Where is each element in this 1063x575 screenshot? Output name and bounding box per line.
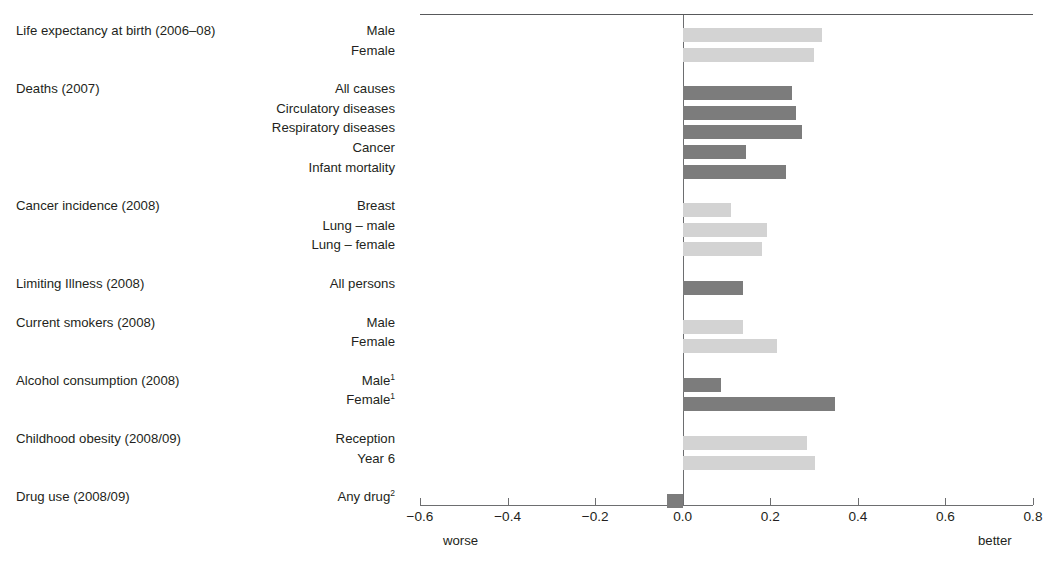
bar xyxy=(667,494,683,508)
plot-area: worse better −0.6−0.4−0.20.00.20.40.60.8 xyxy=(420,0,1063,575)
x-axis-tick-label: 0.6 xyxy=(936,509,955,524)
group-title: Cancer incidence (2008) xyxy=(16,199,160,213)
bar xyxy=(683,281,743,295)
bar xyxy=(683,203,731,217)
series-label: Cancer xyxy=(352,141,395,155)
chart-figure: Life expectancy at birth (2006–08)MaleFe… xyxy=(0,0,1063,575)
group-title: Childhood obesity (2008/09) xyxy=(16,432,181,446)
series-label: Infant mortality xyxy=(309,161,396,175)
x-axis-tick xyxy=(858,498,859,505)
series-label: Female1 xyxy=(346,393,395,407)
x-axis-tick-label: −0.2 xyxy=(582,509,609,524)
bar xyxy=(683,436,808,450)
group-title: Life expectancy at birth (2006–08) xyxy=(16,24,215,38)
series-label: Lung – female xyxy=(311,238,395,252)
series-label: Male xyxy=(366,316,395,330)
x-axis-tick-label: −0.4 xyxy=(494,509,521,524)
x-axis-tick-label: 0.2 xyxy=(761,509,780,524)
series-label: Female xyxy=(351,44,395,58)
group-title: Deaths (2007) xyxy=(16,82,100,96)
bar xyxy=(683,339,777,353)
category-label-column: Life expectancy at birth (2006–08)MaleFe… xyxy=(0,0,412,575)
bar xyxy=(683,165,787,179)
x-axis-tick-label: 0.8 xyxy=(1024,509,1043,524)
bar xyxy=(683,242,762,256)
x-axis-tick xyxy=(420,498,421,505)
group-title: Current smokers (2008) xyxy=(16,316,155,330)
footnote-marker: 1 xyxy=(390,371,395,381)
footnote-marker: 2 xyxy=(390,488,395,498)
x-axis-tick xyxy=(508,498,509,505)
bar xyxy=(683,48,815,62)
bar xyxy=(683,397,835,411)
series-label: Respiratory diseases xyxy=(272,121,395,135)
series-label: Male1 xyxy=(362,374,395,388)
group-title: Drug use (2008/09) xyxy=(16,490,130,504)
series-label: Circulatory diseases xyxy=(276,102,395,116)
x-axis-tick xyxy=(1033,498,1034,505)
series-label: Any drug2 xyxy=(337,490,395,504)
series-label: Year 6 xyxy=(357,452,395,466)
bar xyxy=(683,223,767,237)
series-label: Female xyxy=(351,335,395,349)
axis-note-worse: worse xyxy=(443,533,478,548)
bar xyxy=(683,456,815,470)
x-axis-line xyxy=(420,505,1033,506)
group-title: Alcohol consumption (2008) xyxy=(16,374,179,388)
bar xyxy=(683,125,802,139)
x-axis-tick-label: 0.4 xyxy=(848,509,867,524)
bar xyxy=(683,28,822,42)
series-label: All persons xyxy=(330,277,395,291)
x-axis-tick xyxy=(595,498,596,505)
x-axis-tick xyxy=(683,498,684,505)
axis-note-better: better xyxy=(978,533,1012,548)
x-axis-tick-label: 0.0 xyxy=(673,509,692,524)
series-label: Male xyxy=(366,24,395,38)
series-label: Breast xyxy=(357,199,395,213)
footnote-marker: 1 xyxy=(390,391,395,401)
bar xyxy=(683,320,743,334)
bar xyxy=(683,145,746,159)
bar xyxy=(683,86,792,100)
series-label: Lung – male xyxy=(322,219,395,233)
x-axis-tick-label: −0.6 xyxy=(407,509,434,524)
bar xyxy=(683,378,722,392)
x-axis-tick xyxy=(945,498,946,505)
bar xyxy=(683,106,796,120)
x-axis-tick xyxy=(770,498,771,505)
series-label: All causes xyxy=(335,82,395,96)
top-rule xyxy=(420,14,1033,15)
group-title: Limiting Illness (2008) xyxy=(16,277,144,291)
series-label: Reception xyxy=(336,432,395,446)
